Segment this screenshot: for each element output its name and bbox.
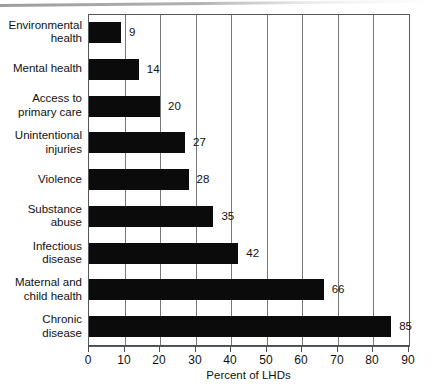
category-label: Maternal and child health xyxy=(0,276,82,303)
x-tick-0 xyxy=(88,346,89,352)
x-tick-label: 10 xyxy=(109,353,139,368)
category-label: Environmental health xyxy=(0,19,82,46)
plot-area: 91420272835426685 xyxy=(88,14,410,347)
x-tick-40 xyxy=(230,346,231,352)
x-tick-label: 0 xyxy=(73,353,103,368)
bar-value-label: 27 xyxy=(193,133,206,152)
x-tick-label: 60 xyxy=(286,353,316,368)
bar xyxy=(89,59,139,80)
bar xyxy=(89,316,391,337)
bar-row: 14 xyxy=(89,52,409,89)
bar-row: 9 xyxy=(89,15,409,52)
x-tick-label: 20 xyxy=(144,353,174,368)
bar-value-label: 85 xyxy=(399,317,412,336)
x-tick-label: 40 xyxy=(215,353,245,368)
bar-value-label: 42 xyxy=(246,244,259,263)
x-tick-90 xyxy=(408,346,409,352)
bar xyxy=(89,243,238,264)
bar-row: 42 xyxy=(89,236,409,273)
bar-chart-figure: Environmental healthMental healthAccess … xyxy=(0,0,434,384)
x-axis-line xyxy=(88,345,409,346)
category-label: Access to primary care xyxy=(0,92,82,119)
bar-value-label: 66 xyxy=(332,280,345,299)
category-label: Mental health xyxy=(0,62,82,76)
bar xyxy=(89,206,213,227)
bar-value-label: 14 xyxy=(147,60,160,79)
bar-value-label: 9 xyxy=(129,23,135,42)
x-tick-60 xyxy=(301,346,302,352)
x-tick-80 xyxy=(372,346,373,352)
x-tick-label: 70 xyxy=(322,353,352,368)
bar-value-label: 20 xyxy=(168,97,181,116)
bar-row: 85 xyxy=(89,309,409,346)
bar xyxy=(89,279,324,300)
category-label: Violence xyxy=(0,173,82,187)
bar-row: 27 xyxy=(89,125,409,162)
category-label: Substance abuse xyxy=(0,203,82,230)
category-label: Infectious disease xyxy=(0,240,82,267)
category-label: Unintentional injuries xyxy=(0,129,82,156)
x-tick-label: 50 xyxy=(251,353,281,368)
bar-row: 35 xyxy=(89,199,409,236)
bar-row: 28 xyxy=(89,162,409,199)
x-tick-label: 80 xyxy=(357,353,387,368)
bar-value-label: 35 xyxy=(221,207,234,226)
bar xyxy=(89,169,189,190)
x-tick-10 xyxy=(124,346,125,352)
bar-row: 20 xyxy=(89,89,409,126)
x-axis-title: Percent of LHDs xyxy=(88,368,409,382)
category-label: Chronic disease xyxy=(0,313,82,340)
x-tick-label: 30 xyxy=(180,353,210,368)
scan-artifact-line xyxy=(0,0,434,7)
x-tick-20 xyxy=(159,346,160,352)
x-tick-30 xyxy=(195,346,196,352)
x-tick-70 xyxy=(337,346,338,352)
bar-value-label: 28 xyxy=(197,170,210,189)
x-tick-label: 90 xyxy=(393,353,423,368)
bar-row: 66 xyxy=(89,272,409,309)
x-tick-50 xyxy=(266,346,267,352)
bar xyxy=(89,22,121,43)
bar xyxy=(89,132,185,153)
bar xyxy=(89,96,160,117)
